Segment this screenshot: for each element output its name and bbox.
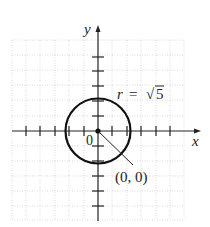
- x-axis-label: x: [191, 133, 199, 149]
- coordinate-plane: y x 0 r = √ 5 (0, 0): [0, 0, 210, 227]
- origin-label: 0: [86, 133, 93, 148]
- y-axis-arrow-icon: [96, 25, 101, 32]
- sqrt-icon: √: [146, 86, 155, 102]
- radius-equals: =: [129, 86, 137, 102]
- y-axis-label: y: [82, 21, 91, 37]
- radius-label: r = √ 5: [117, 86, 164, 102]
- center-label: (0, 0): [115, 169, 148, 186]
- x-axis: [12, 126, 198, 136]
- y-axis: [92, 30, 104, 221]
- radius-r: r: [117, 86, 123, 102]
- radius-sqrt-arg: 5: [156, 86, 164, 102]
- center-leader-line: [98, 131, 133, 165]
